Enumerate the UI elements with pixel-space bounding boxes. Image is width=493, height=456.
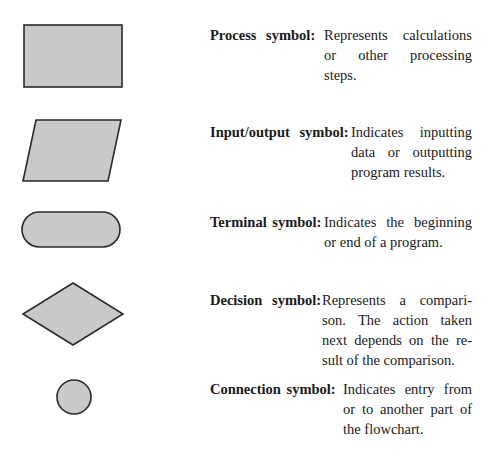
terminal-symbol-label: Terminal symbol:: [210, 212, 321, 232]
description-line: son. The action taken: [322, 310, 472, 330]
input-output-symbol-parallelogram: [23, 120, 121, 181]
decision-symbol-description: Represents a compari- son. The action ta…: [322, 290, 472, 370]
description-line: Represents calculations: [324, 25, 472, 45]
decision-symbol-label: Decision symbol:: [210, 290, 321, 310]
description-line: data or outputting: [351, 142, 472, 162]
description-line: the flowchart.: [343, 419, 472, 439]
terminal-symbol-description: Indicates the beginning or end of a prog…: [324, 212, 472, 252]
process-symbol-rectangle: [24, 25, 122, 87]
description-line: program results.: [351, 162, 472, 182]
input-output-symbol-label: Input/output symbol:: [210, 122, 349, 142]
connection-symbol-circle: [57, 380, 91, 414]
description-line: Represents a compari-: [322, 290, 472, 310]
connection-symbol-description: Indicates entry from or to another part …: [343, 379, 472, 439]
description-line: or other processing: [324, 45, 472, 65]
description-line: or to another part of: [343, 399, 472, 419]
description-line: or end of a program.: [324, 232, 472, 252]
description-line: Indicates the beginning: [324, 212, 472, 232]
description-line: steps.: [324, 65, 472, 85]
description-line: Indicates inputting: [351, 122, 472, 142]
decision-symbol-diamond: [23, 283, 123, 345]
terminal-symbol-rounded-rectangle: [22, 212, 120, 247]
description-line: next depends on the re-: [322, 330, 472, 350]
description-line: sult of the comparison.: [322, 350, 472, 370]
input-output-symbol-description: Indicates inputting data or outputting p…: [351, 122, 472, 182]
connection-symbol-label: Connection symbol:: [210, 379, 336, 399]
description-line: Indicates entry from: [343, 379, 472, 399]
process-symbol-description: Represents calculations or other process…: [324, 25, 472, 85]
process-symbol-label: Process symbol:: [210, 25, 315, 45]
